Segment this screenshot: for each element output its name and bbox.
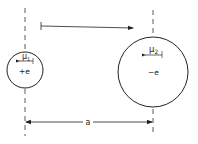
charge-2-label: −e: [148, 68, 159, 77]
separation-label: a: [86, 118, 91, 127]
dipole-diagram: μ1 +e μ2 −e a: [0, 0, 198, 144]
charge-1-label: +e: [19, 67, 30, 76]
top-motion-arrow: [41, 26, 133, 28]
